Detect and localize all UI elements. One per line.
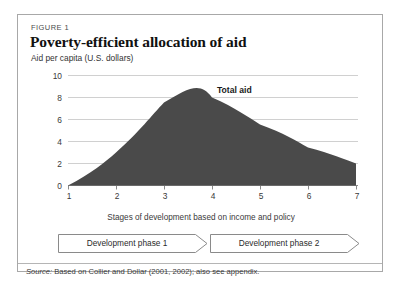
development-phase-1-banner: Development phase 1 (58, 234, 208, 253)
source-text: Based on Collier and Dollar (2001, 2002)… (52, 267, 259, 276)
x-tick-5: 5 (254, 191, 268, 201)
figure-panel: FIGURE 1 Poverty-efficient allocation of… (17, 14, 383, 272)
series-label-total-aid: Total aid (217, 85, 252, 95)
development-phase-1-label: Development phase 1 (58, 234, 196, 253)
figure-title: Poverty-efficient allocation of aid (30, 33, 246, 51)
development-phase-2-banner: Development phase 2 (210, 234, 360, 253)
footer-divider (18, 263, 382, 264)
y-tick-4: 4 (40, 137, 62, 147)
area-chart-svg (18, 67, 382, 207)
chart-plot-area: 10 8 6 4 2 0 1 2 3 4 5 6 7 Total aid (18, 67, 382, 207)
x-tick-7: 7 (350, 191, 364, 201)
source-note: Source: Based on Collier and Dollar (200… (26, 267, 259, 276)
x-tick-1: 1 (62, 191, 76, 201)
source-prefix: Source: (26, 267, 52, 276)
x-tick-marks (69, 186, 357, 190)
y-axis-title: Aid per capita (U.S. dollars) (31, 53, 133, 63)
figure-number-label: FIGURE 1 (31, 23, 69, 32)
x-tick-6: 6 (302, 191, 316, 201)
y-tick-2: 2 (40, 159, 62, 169)
x-tick-4: 4 (206, 191, 220, 201)
total-aid-area (68, 88, 356, 185)
development-phase-2-label: Development phase 2 (210, 234, 348, 253)
development-phase-row: Development phase 1 Development phase 2 (18, 234, 384, 256)
y-tick-10: 10 (40, 71, 62, 81)
x-tick-3: 3 (158, 191, 172, 201)
y-tick-8: 8 (40, 93, 62, 103)
y-tick-6: 6 (40, 115, 62, 125)
y-tick-0: 0 (40, 181, 62, 191)
x-tick-2: 2 (110, 191, 124, 201)
x-axis-title: Stages of development based on income an… (18, 213, 384, 222)
